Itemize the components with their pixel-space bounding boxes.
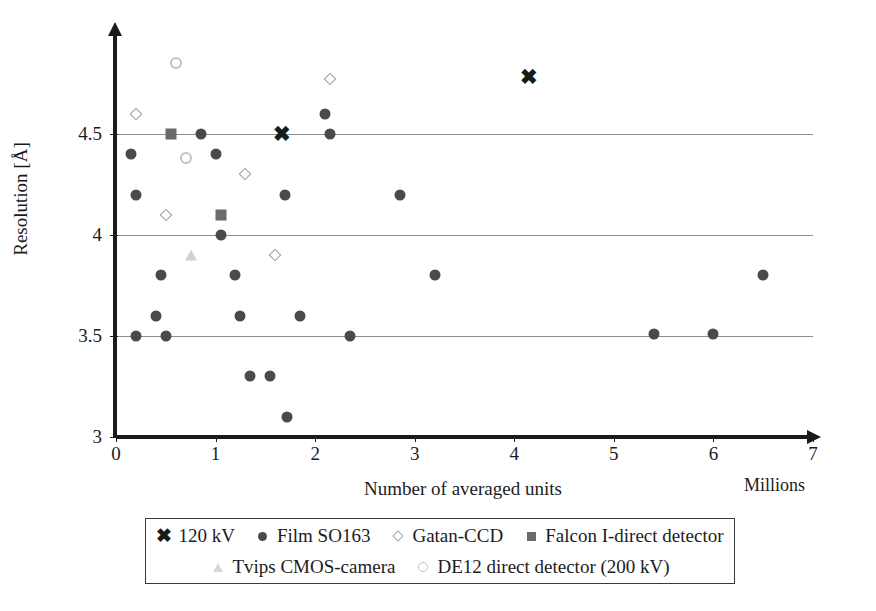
legend-marker-x-bold-icon: ✖ bbox=[156, 528, 172, 544]
gridline-y-4 bbox=[116, 235, 813, 236]
x-tick-label-0: 0 bbox=[96, 443, 136, 465]
legend-swatch-shape: ✖ bbox=[156, 528, 172, 544]
data-point bbox=[235, 310, 246, 321]
legend-item-de12-direct-detector-200-kv[interactable]: DE12 direct detector (200 kV) bbox=[415, 556, 669, 578]
legend-item-gatan-ccd[interactable]: Gatan-CCD bbox=[390, 525, 503, 547]
data-point bbox=[758, 270, 769, 281]
data-point bbox=[280, 189, 291, 200]
data-point bbox=[320, 108, 331, 119]
legend-swatch-shape bbox=[258, 532, 267, 541]
data-point bbox=[708, 328, 719, 339]
y-tick-3.5 bbox=[110, 336, 118, 337]
data-point bbox=[239, 168, 252, 181]
data-point bbox=[215, 209, 226, 220]
legend-label: Film SO163 bbox=[277, 525, 370, 547]
x-tick-2 bbox=[315, 435, 316, 442]
y-tick-label-4.5: 4.5 bbox=[52, 124, 102, 143]
data-point bbox=[159, 208, 172, 221]
legend-item-tvips-cmos-camera[interactable]: Tvips CMOS-camera bbox=[210, 556, 395, 578]
y-tick-label-3.5: 3.5 bbox=[52, 326, 102, 345]
data-point bbox=[648, 328, 659, 339]
x-tick-4 bbox=[514, 435, 515, 442]
data-point bbox=[269, 249, 282, 262]
x-tick-1 bbox=[216, 435, 217, 442]
legend-swatch-shape bbox=[418, 562, 428, 572]
legend-marker-square-filled-icon bbox=[523, 528, 539, 544]
x-axis-unit-label: Millions bbox=[744, 475, 805, 496]
x-tick-label-5: 5 bbox=[594, 443, 634, 465]
data-point bbox=[180, 152, 192, 164]
data-point bbox=[150, 310, 161, 321]
x-tick-label-2: 2 bbox=[295, 443, 335, 465]
data-point bbox=[210, 149, 221, 160]
legend-item-film-so163[interactable]: Film SO163 bbox=[255, 525, 370, 547]
data-point bbox=[185, 250, 197, 261]
y-axis-title: Resolution [Å] bbox=[10, 79, 32, 319]
y-tick-label-3: 3 bbox=[52, 427, 102, 446]
legend-label: Gatan-CCD bbox=[412, 525, 503, 547]
legend-item-falcon-i-direct-detector[interactable]: Falcon I-direct detector bbox=[523, 525, 723, 547]
legend-swatch-shape bbox=[527, 532, 536, 541]
legend-swatch-shape bbox=[213, 563, 223, 572]
scatter-chart-figure: ✖✖ 0123456733.544.5 Number of averaged u… bbox=[0, 0, 876, 611]
x-tick-7 bbox=[813, 435, 814, 442]
data-point bbox=[394, 189, 405, 200]
x-tick-6 bbox=[713, 435, 714, 442]
y-tick-label-4: 4 bbox=[52, 225, 102, 244]
x-tick-label-4: 4 bbox=[494, 443, 534, 465]
gridline-y-3.5 bbox=[116, 336, 813, 337]
x-tick-3 bbox=[415, 435, 416, 442]
legend-label: Falcon I-direct detector bbox=[545, 525, 723, 547]
data-point bbox=[429, 270, 440, 281]
legend-marker-circle-open-light-icon bbox=[415, 559, 431, 575]
y-tick-3 bbox=[110, 437, 118, 438]
x-tick-5 bbox=[614, 435, 615, 442]
legend-swatch-shape bbox=[393, 530, 404, 541]
data-point bbox=[130, 189, 141, 200]
legend-marker-circle-filled-icon bbox=[255, 528, 271, 544]
gridline-y-4.5 bbox=[116, 134, 813, 135]
y-tick-4 bbox=[110, 235, 118, 236]
legend-label: 120 kV bbox=[178, 525, 234, 547]
legend-marker-triangle-light-icon bbox=[210, 559, 226, 575]
x-tick-label-1: 1 bbox=[196, 443, 236, 465]
data-point bbox=[324, 73, 337, 86]
legend-label: DE12 direct detector (200 kV) bbox=[437, 556, 669, 578]
data-point bbox=[170, 57, 182, 69]
data-point bbox=[130, 107, 143, 120]
data-point bbox=[230, 270, 241, 281]
legend-row-1: ✖120 kVFilm SO163Gatan-CCDFalcon I-direc… bbox=[146, 519, 734, 551]
data-point bbox=[155, 270, 166, 281]
chart-legend: ✖120 kVFilm SO163Gatan-CCDFalcon I-direc… bbox=[145, 518, 735, 584]
plot-area: ✖✖ bbox=[116, 33, 813, 437]
data-point bbox=[282, 411, 293, 422]
data-point: ✖ bbox=[519, 67, 539, 87]
legend-marker-diamond-open-icon bbox=[390, 528, 406, 544]
x-axis-title: Number of averaged units bbox=[116, 478, 810, 500]
data-point bbox=[265, 371, 276, 382]
legend-row-2: Tvips CMOS-cameraDE12 direct detector (2… bbox=[146, 551, 734, 583]
data-point bbox=[125, 149, 136, 160]
x-tick-label-6: 6 bbox=[693, 443, 733, 465]
y-tick-4.5 bbox=[110, 134, 118, 135]
legend-item-120-kv[interactable]: ✖120 kV bbox=[156, 525, 234, 547]
x-tick-label-7: 7 bbox=[793, 443, 833, 465]
legend-label: Tvips CMOS-camera bbox=[232, 556, 395, 578]
x-tick-label-3: 3 bbox=[395, 443, 435, 465]
data-point bbox=[295, 310, 306, 321]
data-point bbox=[245, 371, 256, 382]
